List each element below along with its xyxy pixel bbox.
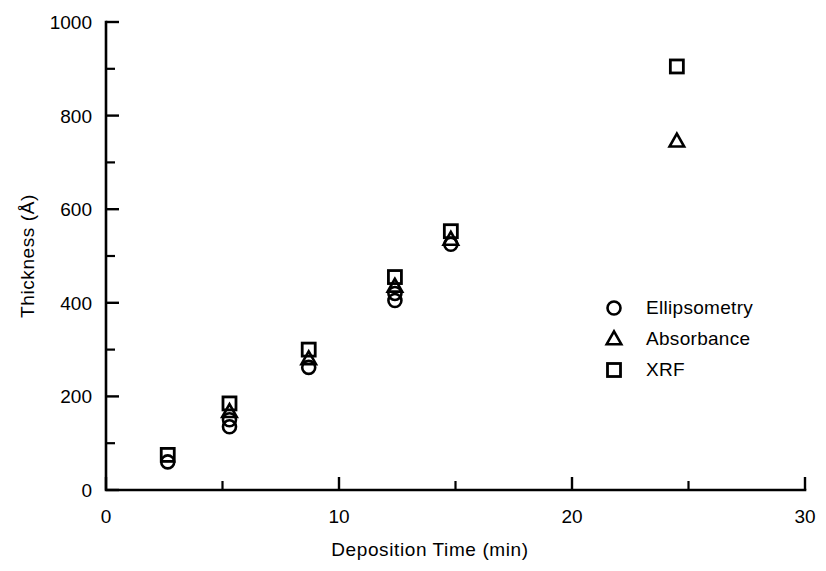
y-tick-label: 200 — [60, 386, 92, 407]
x-tick-label: 30 — [794, 506, 815, 527]
x-tick-label: 10 — [328, 506, 349, 527]
y-tick-label: 1000 — [50, 12, 92, 33]
legend-label: Absorbance — [646, 328, 750, 349]
x-tick-label: 0 — [101, 506, 112, 527]
y-tick-label: 800 — [60, 106, 92, 127]
y-tick-label: 400 — [60, 293, 92, 314]
chart-background — [0, 0, 826, 571]
y-axis-title: Thickness (Å) — [17, 194, 38, 318]
x-axis-title: Deposition Time (min) — [331, 539, 528, 560]
y-tick-label: 600 — [60, 199, 92, 220]
legend-label: Ellipsometry — [646, 297, 753, 318]
scatter-chart-figure: 020040060080010000102030 Thickness (Å) D… — [0, 0, 826, 571]
x-tick-label: 20 — [561, 506, 582, 527]
legend-item-xrf[interactable]: XRF — [608, 359, 685, 380]
y-tick-label: 0 — [81, 480, 92, 501]
legend-label: XRF — [646, 359, 685, 380]
chart-svg: 020040060080010000102030 Thickness (Å) D… — [0, 0, 826, 571]
